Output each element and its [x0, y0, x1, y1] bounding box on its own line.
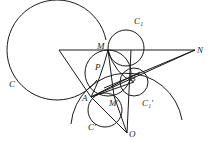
label-C1: C₁: [134, 17, 143, 26]
line-vertical-B: [127, 50, 131, 133]
line-LA: [59, 50, 91, 97]
line-NP: [104, 50, 195, 88]
label-M-top: M: [97, 42, 105, 51]
label-P: P: [95, 63, 101, 72]
label-M-bottom: M′: [109, 99, 118, 108]
label-A: A: [82, 94, 88, 103]
label-N: N: [197, 46, 203, 55]
label-B: B: [130, 74, 136, 83]
geometry-diagram: [0, 0, 208, 142]
label-C: C: [9, 80, 15, 89]
label-C1-prime: C₁′: [142, 99, 153, 108]
label-C-prime: C′: [88, 123, 96, 132]
label-O: O: [129, 130, 136, 139]
circle-C1: [108, 30, 144, 66]
